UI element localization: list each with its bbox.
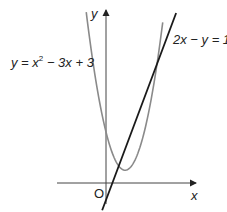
origin-label: O (94, 187, 104, 200)
y-axis-label: y (91, 7, 98, 20)
parabola-eq-exponent: 2 (39, 54, 43, 63)
line-equation-label: 2x − y = 1 (173, 33, 227, 46)
parabola-curve (86, 12, 163, 170)
parabola-equation-label: y = x2 − 3x + 3 (11, 56, 94, 69)
parabola-eq-suffix: − 3x + 3 (43, 55, 94, 70)
x-axis-label: x (191, 189, 198, 202)
straight-line (102, 13, 176, 210)
parabola-eq-prefix: y = x (11, 55, 39, 70)
